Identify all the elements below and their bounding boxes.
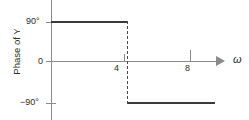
x-tick-4 xyxy=(124,54,125,62)
trace-segment-minus-90 xyxy=(128,102,215,104)
y-tick-minus-90 xyxy=(46,103,56,104)
y-axis-title: Phase of Y xyxy=(11,14,22,90)
y-tick-label-90: 90° xyxy=(26,16,40,26)
y-tick-0 xyxy=(46,61,56,62)
y-tick-label-0: 0 xyxy=(38,56,43,66)
x-axis-arrow-icon xyxy=(216,56,225,66)
y-axis-line xyxy=(51,0,52,120)
x-tick-label-4: 4 xyxy=(114,63,119,73)
x-tick-8 xyxy=(190,50,191,62)
phase-plot-figure: 90° 0 −90° 4 8 ω Phase of Y xyxy=(0,0,249,120)
trace-transition-dashed xyxy=(127,21,128,104)
x-tick-label-8: 8 xyxy=(185,63,190,73)
x-axis-line xyxy=(51,61,222,62)
trace-segment-plus-90 xyxy=(51,21,128,23)
y-tick-label-minus-90: −90° xyxy=(20,97,39,107)
x-axis-label-omega: ω xyxy=(233,54,242,64)
